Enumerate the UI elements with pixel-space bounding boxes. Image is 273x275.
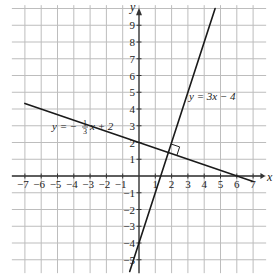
x-tick-label: −2 [99, 178, 111, 190]
y-tick-label: 9 [130, 19, 136, 31]
y-tick-label: 7 [130, 53, 136, 65]
x-tick-label: −7 [17, 178, 29, 190]
line1-lhs: y = − [51, 120, 77, 132]
x-tick-label: 4 [201, 178, 207, 190]
y-axis-label: y [129, 0, 136, 14]
x-tick-label: 5 [218, 178, 224, 190]
line2-equation-label: y = 3x − 4 [188, 90, 236, 102]
y-tick-label: 3 [130, 120, 136, 132]
coordinate-plane: −7−6−5−4−3−2−11234567987654321−1−2−3−4−5… [0, 0, 273, 275]
y-tick-label: −2 [123, 204, 135, 216]
y-tick-label: −3 [123, 220, 135, 232]
line1-rhs: x + 2 [89, 120, 114, 132]
x-tick-label: 2 [169, 178, 175, 190]
y-tick-label: 6 [130, 70, 136, 82]
line1-equation-label: y = − 1 3 x + 2 [51, 119, 114, 136]
x-tick-label: 6 [234, 178, 240, 190]
y-tick-label: 1 [130, 153, 136, 165]
y-tick-label: −4 [123, 237, 135, 249]
line-y-3x-minus-4 [130, 9, 215, 272]
axes [12, 8, 265, 273]
x-axis-label: x [266, 170, 273, 184]
x-tick-label: −3 [82, 178, 94, 190]
y-tick-label: 8 [130, 36, 136, 48]
x-tick-label: −6 [33, 178, 45, 190]
x-tick-label: −5 [50, 178, 62, 190]
x-tick-label: −4 [66, 178, 78, 190]
y-tick-label: −1 [123, 187, 135, 199]
y-tick-label: 4 [130, 103, 136, 115]
line1-fraction-denominator: 3 [83, 127, 87, 136]
x-axis-arrow-icon [260, 173, 265, 179]
x-tick-label: 7 [250, 178, 256, 190]
y-tick-label: 2 [130, 137, 136, 149]
y-tick-label: 5 [130, 86, 136, 98]
x-tick-label: 3 [185, 178, 191, 190]
